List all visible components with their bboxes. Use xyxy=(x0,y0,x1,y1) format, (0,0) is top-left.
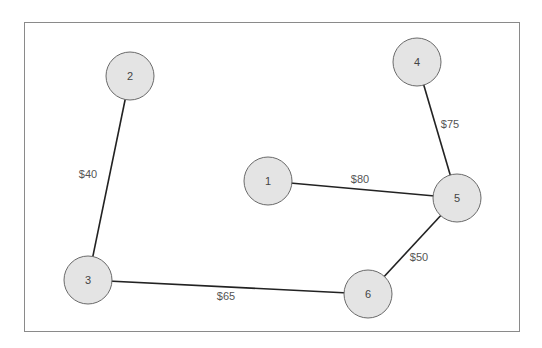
nodes-group: 123456 xyxy=(64,38,481,318)
node-2: 2 xyxy=(106,52,154,100)
edge-cost-label: $75 xyxy=(441,118,459,130)
node-4: 4 xyxy=(393,38,441,86)
edge-cost-label: $50 xyxy=(410,251,428,263)
graph-canvas: $40$65$80$75$50 123456 xyxy=(0,0,542,348)
edge-cost-label: $80 xyxy=(351,173,369,185)
node-label: 5 xyxy=(454,192,460,204)
node-label: 6 xyxy=(365,288,371,300)
node-label: 2 xyxy=(127,70,133,82)
node-label: 1 xyxy=(265,175,271,187)
edge-cost-label: $40 xyxy=(79,168,97,180)
node-label: 4 xyxy=(414,56,420,68)
node-5: 5 xyxy=(433,174,481,222)
node-3: 3 xyxy=(64,256,112,304)
node-label: 3 xyxy=(85,274,91,286)
node-1: 1 xyxy=(244,157,292,205)
node-6: 6 xyxy=(344,270,392,318)
edge-cost-label: $65 xyxy=(217,290,235,302)
